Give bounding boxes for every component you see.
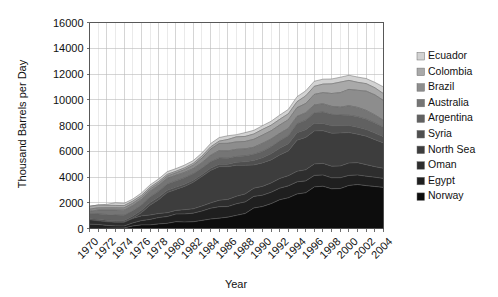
stacked-area-chart: 0200040006000800010000120001400016000 19…	[0, 0, 498, 297]
x-axis-title: Year	[225, 278, 248, 290]
legend-swatch-north-sea	[417, 146, 425, 154]
legend-label-norway: Norway	[428, 189, 464, 201]
y-tick-labels: 0200040006000800010000120001400016000	[53, 17, 84, 235]
y-tick-label: 4000	[59, 171, 83, 183]
legend-label-argentina: Argentina	[428, 111, 473, 123]
legend-swatch-australia	[417, 99, 425, 107]
legend-swatch-ecuador	[417, 53, 425, 61]
y-tick-label: 16000	[53, 17, 84, 29]
y-tick-label: 10000	[53, 94, 84, 106]
legend-swatch-brazil	[417, 84, 425, 92]
y-tick-label: 14000	[53, 42, 84, 54]
chart-legend: EcuadorColombiaBrazilAustraliaArgentinaS…	[417, 49, 475, 201]
y-tick-label: 8000	[59, 120, 83, 132]
legend-swatch-oman	[417, 162, 425, 170]
legend-swatch-norway	[417, 193, 425, 201]
legend-swatch-syria	[417, 131, 425, 139]
legend-label-north-sea: North Sea	[428, 143, 475, 155]
y-axis-title: Thousand Barrels per Day	[16, 59, 28, 188]
legend-label-oman: Oman	[428, 158, 457, 170]
legend-label-brazil: Brazil	[428, 80, 454, 92]
legend-swatch-egypt	[417, 177, 425, 185]
legend-label-ecuador: Ecuador	[428, 49, 468, 61]
legend-label-syria: Syria	[428, 127, 452, 139]
legend-swatch-argentina	[417, 115, 425, 123]
legend-label-egypt: Egypt	[428, 174, 455, 186]
chart-canvas: 0200040006000800010000120001400016000 19…	[0, 0, 498, 297]
y-tick-label: 2000	[59, 197, 83, 209]
y-tick-label: 12000	[53, 68, 84, 80]
y-tick-label: 0	[77, 223, 83, 235]
legend-label-colombia: Colombia	[428, 65, 473, 77]
x-tick-labels: 1970197219741976197819801982198419861988…	[75, 235, 395, 261]
y-tick-label: 6000	[59, 145, 83, 157]
legend-swatch-colombia	[417, 68, 425, 76]
legend-label-australia: Australia	[428, 96, 469, 108]
